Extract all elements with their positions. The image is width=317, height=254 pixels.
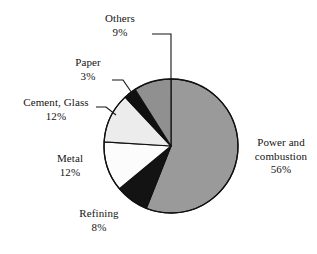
pie-chart-svg: [0, 0, 317, 254]
slice-label-cement-glass: Cement, Glass 12%: [4, 96, 108, 123]
slice-label-power-name-line2: combustion: [245, 150, 317, 164]
slice-label-paper: Paper 3%: [62, 56, 114, 83]
slice-label-paper-name: Paper: [62, 56, 114, 70]
slice-label-cement-glass-name: Cement, Glass: [4, 96, 108, 110]
slice-label-refining: Refining 8%: [64, 207, 134, 234]
slice-label-power-name-line1: Power and: [245, 136, 317, 150]
slice-label-paper-value: 3%: [62, 70, 114, 84]
slice-label-refining-value: 8%: [64, 221, 134, 235]
slice-label-refining-name: Refining: [64, 207, 134, 221]
slice-label-power-and-combustion: Power and combustion 56%: [245, 136, 317, 177]
slice-label-metal: Metal 12%: [40, 152, 100, 179]
slice-label-others: Others 9%: [88, 12, 152, 39]
slice-label-power-value: 56%: [245, 163, 317, 177]
leader-line-others: [152, 34, 171, 79]
pie-chart-figure: Others 9% Paper 3% Cement, Glass 12% Met…: [0, 0, 317, 254]
slice-label-others-name: Others: [88, 12, 152, 26]
slice-label-others-value: 9%: [88, 26, 152, 40]
pie-slice-group: [104, 79, 238, 213]
slice-label-metal-value: 12%: [40, 166, 100, 180]
slice-label-metal-name: Metal: [40, 152, 100, 166]
slice-label-cement-glass-value: 12%: [4, 110, 108, 124]
